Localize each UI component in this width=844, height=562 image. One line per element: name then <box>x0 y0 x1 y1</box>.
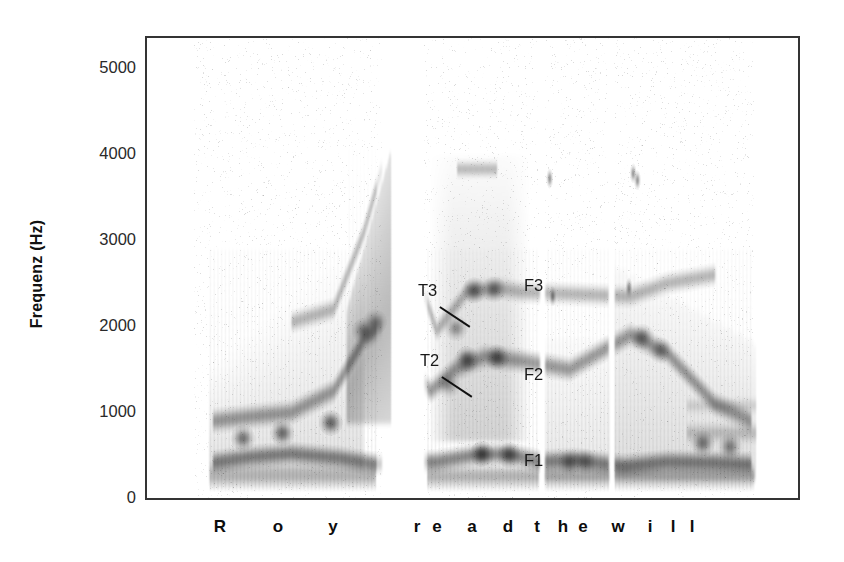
phoneme-label: w <box>608 518 628 535</box>
annotation-f1: F1 <box>524 452 543 469</box>
phoneme-label: d <box>498 518 518 535</box>
y-tick-label-2000: 2000 <box>74 317 136 334</box>
plot-frame: T3T2F3F2F1 <box>145 36 800 500</box>
phoneme-transcription-row: Royreadthewill <box>0 518 844 548</box>
phoneme-label: r <box>407 518 427 535</box>
y-tick-label-5000: 5000 <box>74 59 136 76</box>
spectrogram-image <box>147 38 798 498</box>
y-axis-title: Frequenz (Hz) <box>28 179 46 369</box>
phoneme-label: t <box>527 518 547 535</box>
phoneme-label: e <box>573 518 593 535</box>
y-tick-label-1000: 1000 <box>74 403 136 420</box>
y-tick-label-3000: 3000 <box>74 231 136 248</box>
y-tick-label-4000: 4000 <box>74 145 136 162</box>
y-axis-ticks: 500040003000200010000 <box>74 0 136 562</box>
spectrogram-figure: Frequenz (Hz) 500040003000200010000 T3T2… <box>0 0 844 562</box>
phoneme-label: l <box>663 518 683 535</box>
phoneme-label: l <box>682 518 702 535</box>
phoneme-label: e <box>427 518 447 535</box>
annotation-f3: F3 <box>524 277 543 294</box>
phoneme-label: h <box>553 518 573 535</box>
annotation-t2: T2 <box>420 352 439 369</box>
y-tick-label-0: 0 <box>74 489 136 506</box>
phoneme-label: y <box>323 518 343 535</box>
annotation-t3: T3 <box>418 282 437 299</box>
annotation-f2: F2 <box>524 366 543 383</box>
phoneme-label: a <box>462 518 482 535</box>
phoneme-label: R <box>210 518 230 535</box>
phoneme-label: i <box>640 518 660 535</box>
phoneme-label: o <box>268 518 288 535</box>
